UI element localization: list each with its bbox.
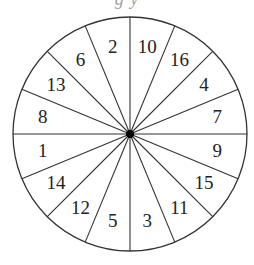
sector-label: 1 — [38, 140, 48, 161]
sector-label: 16 — [170, 49, 189, 70]
sector-label: 10 — [138, 36, 157, 57]
sector-label: 12 — [71, 197, 90, 218]
sector-label: 2 — [108, 36, 118, 57]
sector-label: 5 — [108, 210, 118, 231]
sector-label: 8 — [38, 106, 48, 127]
sector-label: 4 — [199, 74, 209, 95]
sector-label: 14 — [47, 172, 67, 193]
sector-label: 3 — [143, 210, 153, 231]
number-wheel: 10164791511351214181362 — [0, 0, 254, 265]
sector-label: 13 — [47, 74, 66, 95]
sector-label: 9 — [212, 140, 222, 161]
sector-label: 6 — [76, 49, 86, 70]
sector-label: 7 — [212, 106, 222, 127]
center-hub — [126, 130, 134, 138]
sector-label: 11 — [170, 197, 188, 218]
sector-label: 15 — [194, 172, 213, 193]
